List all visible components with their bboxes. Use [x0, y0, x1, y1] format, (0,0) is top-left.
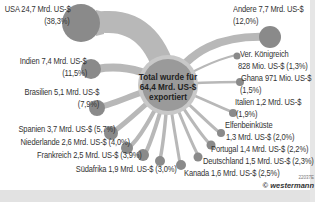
label-usa-1: USA 24,7 Mrd. US-$ — [4, 5, 70, 15]
node-elfenbein — [217, 129, 225, 137]
label-portugal: Portugal 1,4 Mrd. US-$ (2,2%) — [211, 145, 308, 155]
label-brasilien-2: (7,9%) — [78, 100, 99, 110]
label-ghana-2: (1,5%) — [240, 86, 261, 96]
label-uk-2: 828 Mio. US-$ (1,3%) — [238, 62, 308, 72]
label-andere-2: (12,0%) — [233, 17, 258, 27]
label-italien-2: (1,9%) — [236, 110, 257, 120]
copyright: © westermann — [263, 181, 310, 190]
label-indien-2: (11,5%) — [62, 69, 87, 79]
label-elfenbein-1: Elfenbeinküste — [225, 121, 272, 131]
label-spanien: Spanien 3,7 Mrd. US-$ (5,7%) — [18, 125, 115, 135]
label-niederlande: Niederlande 2,6 Mrd. US-$ (4,0%) — [21, 138, 130, 148]
label-italien-1: Italien 1,2 Mrd. US-$ — [235, 98, 301, 108]
center-line-3: exportiert — [130, 93, 206, 103]
label-indien-1: Indien 7,4 Mrd. US-$ — [20, 57, 87, 67]
label-elfenbein-2: 1,3 Mrd. US-$ (2,0%) — [226, 133, 294, 143]
label-kanada: Kanada 1,6 Mrd. US-$ (2,5%) — [184, 169, 280, 179]
label-deutschland: Deutschland 1,5 Mrd. US-$ (2,3%) — [203, 157, 310, 167]
label-suedafrika: Südafrika 1,9 Mrd. US-$ (3,0%) — [76, 165, 177, 175]
label-usa-2: (38,3%) — [45, 17, 70, 27]
center-label: Total wurde für 64,4 Mrd. US-$ exportier… — [130, 73, 206, 103]
label-andere-1: Andere 7,7 Mrd. US-$ — [233, 5, 304, 15]
node-andere — [259, 26, 281, 48]
center-line-1: Total wurde für — [130, 73, 206, 83]
label-ghana-1: Ghana 971 Mio. US-$ — [241, 74, 310, 84]
label-frankreich: Frankreich 2,5 Mrd. US-$ (3,9%) — [37, 151, 142, 161]
label-brasilien-1: Brasilien 5,1 Mrd. US-$ — [24, 88, 99, 98]
label-uk-1: Ver. Königreich — [240, 50, 289, 60]
center-line-2: 64,4 Mrd. US-$ — [130, 83, 206, 93]
node-deutschland — [194, 153, 203, 162]
figure-code: 22037E — [298, 175, 310, 180]
